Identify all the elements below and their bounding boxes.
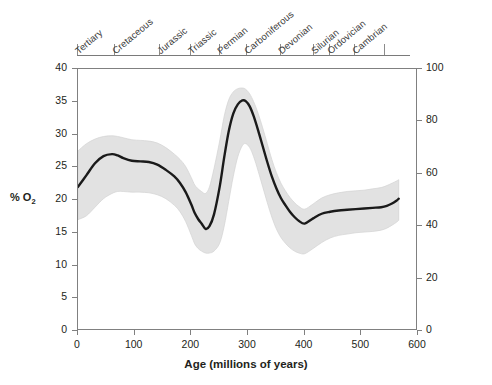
geological-period-label-cretaceous: Cretaceous xyxy=(110,16,155,56)
y-axis-left-tick-label: 5 xyxy=(31,290,67,302)
oxygen-history-chart: TertiaryCretaceousJurassicTriassicPermia… xyxy=(0,0,492,385)
y-axis-left-tick xyxy=(72,134,77,135)
x-axis-tick xyxy=(360,330,361,335)
y-axis-left-title-text: % O xyxy=(10,191,31,203)
y-axis-left-tick xyxy=(72,101,77,102)
y-axis-left-tick-label: 25 xyxy=(31,159,67,171)
x-axis-title: Age (millions of years) xyxy=(0,358,492,370)
x-axis-tick xyxy=(247,330,248,335)
y-axis-right-tick-label: 20 xyxy=(426,271,438,283)
y-axis-left-tick xyxy=(72,68,77,69)
y-axis-right-tick-label: 40 xyxy=(426,218,438,230)
y-axis-left-tick-label: 30 xyxy=(31,127,67,139)
geological-period-label-tertiary: Tertiary xyxy=(73,27,105,56)
x-axis-tick-label: 100 xyxy=(114,338,154,350)
geological-period-boundary-tick xyxy=(384,44,385,55)
y-axis-right-tick-label: 60 xyxy=(426,166,438,178)
y-axis-left-tick-label: 0 xyxy=(31,323,67,335)
y-axis-left-tick xyxy=(72,265,77,266)
y-axis-left-tick xyxy=(72,166,77,167)
x-axis-tick-label: 400 xyxy=(284,338,324,350)
x-axis-tick xyxy=(77,330,78,335)
plot-area xyxy=(77,68,417,330)
y-axis-right-tick-label: 100 xyxy=(426,61,444,73)
y-axis-left-tick xyxy=(72,232,77,233)
y-axis-right-tick xyxy=(417,68,422,69)
x-axis-title-text: Age (millions of years) xyxy=(184,358,307,370)
x-axis-tick xyxy=(134,330,135,335)
x-axis-tick xyxy=(304,330,305,335)
y-axis-left-tick-label: 10 xyxy=(31,258,67,270)
y-axis-right-tick xyxy=(417,278,422,279)
x-axis-tick-label: 200 xyxy=(170,338,210,350)
uncertainty-band xyxy=(78,88,399,254)
y-axis-left-tick-label: 20 xyxy=(31,192,67,204)
geological-period-axis: TertiaryCretaceousJurassicTriassicPermia… xyxy=(0,0,492,62)
y-axis-left-tick xyxy=(72,297,77,298)
x-axis-tick-label: 500 xyxy=(340,338,380,350)
y-axis-left-tick xyxy=(72,199,77,200)
x-axis-tick xyxy=(417,330,418,335)
x-axis-tick-label: 600 xyxy=(397,338,437,350)
x-axis-tick xyxy=(190,330,191,335)
y-axis-left-tick-label: 35 xyxy=(31,94,67,106)
data-layer xyxy=(78,69,418,331)
x-axis-tick-label: 0 xyxy=(57,338,97,350)
y-axis-left-tick-label: 40 xyxy=(31,61,67,73)
y-axis-left-tick-label: 15 xyxy=(31,225,67,237)
y-axis-right-tick xyxy=(417,120,422,121)
y-axis-right-tick xyxy=(417,173,422,174)
geological-period-label-jurassic: Jurassic xyxy=(155,25,189,56)
y-axis-right-tick-label: 0 xyxy=(426,323,432,335)
x-axis-tick-label: 300 xyxy=(227,338,267,350)
y-axis-right-tick xyxy=(417,225,422,226)
geological-period-rule xyxy=(77,55,410,56)
geological-period-label-triassic: Triassic xyxy=(186,26,218,56)
y-axis-right-tick-label: 80 xyxy=(426,113,438,125)
